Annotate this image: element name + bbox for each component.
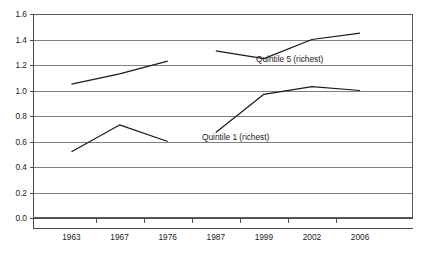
x-tick-label: 1976 (158, 232, 177, 242)
series-line-1-segment-1 (71, 61, 167, 84)
series-annotation-1: Quintile 5 (richest) (256, 54, 324, 64)
x-tick-label: 1967 (110, 232, 129, 242)
series-line-2-segment-2 (216, 87, 360, 133)
y-tick-label: 0.2 (15, 188, 27, 198)
y-tick-label: 1.0 (15, 86, 27, 96)
y-tick-label: 0.0 (15, 213, 27, 223)
y-tick-label: 1.2 (15, 60, 27, 70)
x-tick-label: 1987 (207, 232, 226, 242)
y-tick-label: 1.4 (15, 35, 27, 45)
y-tick-label: 0.8 (15, 111, 27, 121)
y-tick-label: 1.6 (15, 9, 27, 19)
series-annotation-2: Quintile 1 (richest) (202, 132, 270, 142)
x-tick-label: 2006 (351, 232, 370, 242)
y-tick-label: 0.4 (15, 162, 27, 172)
y-tick-label: 0.6 (15, 137, 27, 147)
x-tick-label: 1999 (255, 232, 274, 242)
x-tick-label: 1963 (62, 232, 81, 242)
x-tick-label: 2002 (303, 232, 322, 242)
chart-canvas: 0.00.20.40.60.81.01.21.41.61963196719761… (0, 0, 430, 253)
line-chart: 0.00.20.40.60.81.01.21.41.61963196719761… (0, 0, 430, 253)
series-line-2-segment-1 (71, 125, 167, 152)
